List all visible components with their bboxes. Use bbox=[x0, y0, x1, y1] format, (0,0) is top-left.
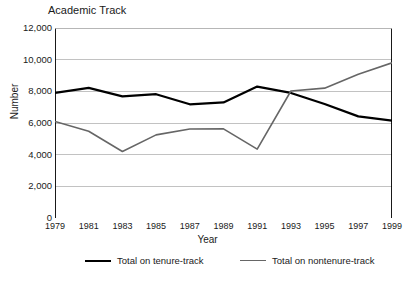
plot-area bbox=[55, 28, 392, 218]
series-line-nontenure-track bbox=[55, 63, 392, 152]
x-tick-label: 1983 bbox=[112, 221, 132, 231]
y-tick-label: 8,000 bbox=[6, 86, 52, 96]
legend-swatch-nontenure-track bbox=[240, 260, 266, 261]
x-axis-label: Year bbox=[0, 234, 415, 245]
x-tick-label: 1993 bbox=[281, 221, 301, 231]
series-lines bbox=[55, 63, 392, 152]
chart-figure: Academic Track Number 12,00010,0008,0006… bbox=[0, 0, 415, 287]
y-tick-label: 6,000 bbox=[6, 118, 52, 128]
legend-label-tenure-track: Total on tenure-track bbox=[117, 255, 204, 266]
y-tick-label: 12,000 bbox=[6, 23, 52, 33]
chart-title: Academic Track bbox=[48, 4, 126, 16]
x-tick-label: 1981 bbox=[79, 221, 99, 231]
legend-label-nontenure-track: Total on nontenure-track bbox=[272, 255, 374, 266]
x-tick-label: 1985 bbox=[146, 221, 166, 231]
plot-svg bbox=[55, 28, 392, 218]
x-tick-label: 1991 bbox=[247, 221, 267, 231]
y-axis-ticks: 12,00010,0008,0006,0004,0002,0000 bbox=[0, 28, 52, 218]
y-tick-label: 10,000 bbox=[6, 55, 52, 65]
legend-item-nontenure-track: Total on nontenure-track bbox=[240, 255, 374, 266]
x-tick-label: 1989 bbox=[213, 221, 233, 231]
x-tick-label: 1979 bbox=[45, 221, 65, 231]
chart-legend: Total on tenure-track Total on nontenure… bbox=[0, 255, 415, 271]
y-tick-label: 4,000 bbox=[6, 150, 52, 160]
x-tick-label: 1995 bbox=[315, 221, 335, 231]
x-axis-ticks: 1979198119831985198719891991199319951997… bbox=[55, 221, 392, 235]
x-tick-label: 1997 bbox=[348, 221, 368, 231]
x-tick-label: 1987 bbox=[180, 221, 200, 231]
legend-swatch-tenure-track bbox=[85, 260, 111, 262]
y-tick-label: 2,000 bbox=[6, 181, 52, 191]
x-tick-label: 1999 bbox=[382, 221, 402, 231]
legend-item-tenure-track: Total on tenure-track bbox=[85, 255, 204, 266]
gridlines bbox=[55, 28, 392, 218]
